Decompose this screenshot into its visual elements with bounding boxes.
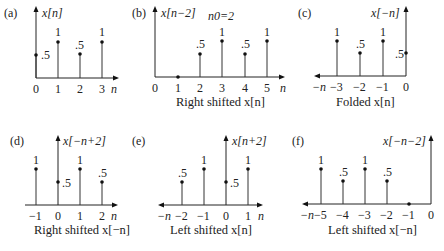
tick-label: 3	[99, 82, 105, 96]
sample-point	[404, 51, 408, 55]
x-axis-arrow-icon	[257, 203, 263, 208]
tick-label: 0	[152, 81, 158, 95]
tick-label: 0	[33, 82, 39, 96]
sample-value: 1	[318, 153, 324, 167]
sample-value: 1	[201, 153, 207, 167]
tick-label: 4	[242, 81, 248, 95]
y-axis-arrow-icon	[56, 135, 61, 141]
x-axis-arrow-icon	[279, 75, 285, 80]
x-axis-arrow-icon	[112, 203, 118, 208]
sample-point	[100, 180, 104, 184]
sample-value: .5	[196, 37, 205, 51]
signal-operations-figure: (a) x[n] n .5 1 .5 1 0 1 2 3 (b) x[n−2] …	[0, 0, 444, 251]
y-axis-arrow-icon	[34, 6, 39, 12]
sample-point	[78, 167, 82, 171]
tick-label: 5	[264, 81, 270, 95]
panel-caption: Folded x[n]	[336, 95, 395, 109]
sample-value: .5	[395, 47, 404, 61]
panel-d: (d) x[−n+2] n 1 .5 1 .5 −1 0 1 2 Right s…	[10, 134, 130, 237]
sample-value: .5	[339, 165, 348, 179]
y-axis-label: x[n]	[41, 6, 63, 20]
x-axis-label: −n	[312, 80, 326, 94]
tick-label: −3	[358, 208, 371, 222]
tick-label: −4	[336, 208, 349, 222]
sample-point	[56, 180, 60, 184]
tick-label: −2	[175, 209, 188, 223]
sample-value: 1	[362, 153, 368, 167]
panel-caption: Right shifted x[−n]	[34, 223, 130, 237]
sample-point	[34, 53, 38, 57]
panel-c: (c) x[−n] 1 .5 1 .5 −n −3 −2 −1 0 Folded…	[298, 6, 409, 109]
sample-point	[243, 52, 247, 56]
panel-caption: Left shifted x[−n]	[328, 223, 417, 237]
sample-value: .5	[356, 37, 365, 51]
panel-tag: (d)	[10, 134, 24, 148]
y-axis-label: x[−n−2]	[382, 134, 426, 148]
x-axis-left-label: −n	[157, 209, 171, 223]
sample-value: .5	[98, 166, 107, 180]
y-axis-label: x[−n+2]	[62, 134, 106, 148]
sample-point	[381, 39, 385, 43]
tick-label: 3	[219, 81, 225, 95]
sample-point	[246, 167, 250, 171]
shift-note: n0=2	[208, 9, 234, 23]
x-axis-arrow-icon	[113, 76, 119, 81]
sample-value: 1	[245, 153, 251, 167]
sample-value: 1	[380, 25, 386, 39]
panel-caption: Right shifted x[n]	[176, 95, 265, 109]
sample-value: 1	[334, 25, 340, 39]
tick-label: −1	[197, 209, 210, 223]
sample-point	[34, 167, 38, 171]
tick-label: 0	[428, 208, 434, 222]
y-axis-arrow-icon	[153, 6, 158, 12]
sample-point	[341, 179, 345, 183]
x-axis-label: n	[111, 82, 117, 96]
sample-point	[224, 180, 228, 184]
panel-e: (e) x[n+2] .5 1 .5 1 −n −2 −1 0 1 n Left…	[132, 134, 267, 237]
sample-point	[335, 39, 339, 43]
sample-point	[358, 51, 362, 55]
y-axis-label: x[n−2]	[160, 6, 196, 20]
panel-caption: Left shifted x[n]	[170, 223, 252, 237]
y-axis-arrow-icon	[404, 6, 409, 12]
x-axis-label: n	[280, 81, 286, 95]
panel-f: (f) x[−n−2] 1 .5 1 .5 −n −5 −4 −3 −2 −1 …	[292, 134, 434, 237]
sample-point	[180, 180, 184, 184]
sample-point	[319, 167, 323, 171]
tick-label: 1	[77, 209, 83, 223]
sample-value: 1	[219, 25, 225, 39]
sample-value: 1	[264, 25, 270, 39]
panel-tag: (a)	[4, 6, 17, 20]
tick-label: 2	[197, 81, 203, 95]
sample-point	[265, 39, 269, 43]
panel-tag: (b)	[132, 6, 146, 20]
tick-label: −1	[376, 80, 389, 94]
sample-point	[56, 40, 60, 44]
tick-label: −3	[330, 80, 343, 94]
panel-tag: (e)	[132, 134, 145, 148]
sample-point	[363, 167, 367, 171]
sample-point	[202, 167, 206, 171]
sample-point	[78, 52, 82, 56]
sample-point	[176, 75, 180, 79]
tick-label: −2	[353, 80, 366, 94]
tick-label: 1	[245, 209, 251, 223]
sample-point	[100, 40, 104, 44]
panel-tag: (c)	[298, 6, 311, 20]
sample-point	[198, 52, 202, 56]
sample-value: .5	[230, 176, 239, 190]
x-axis-arrow-icon	[302, 202, 308, 207]
y-axis-arrow-icon	[224, 135, 229, 141]
sample-value: 1	[77, 153, 83, 167]
tick-label: 0	[223, 209, 229, 223]
tick-label: 0	[55, 209, 61, 223]
tick-label: 2	[77, 82, 83, 96]
y-axis-label: x[n+2]	[231, 134, 267, 148]
sample-value: 1	[55, 25, 61, 39]
sample-point	[407, 202, 411, 206]
sample-value: .5	[241, 37, 250, 51]
x-axis-label: n	[111, 209, 117, 223]
sample-value: .5	[62, 176, 71, 190]
panel-a: (a) x[n] n .5 1 .5 1 0 1 2 3	[4, 6, 119, 96]
x-axis-label: n	[258, 209, 264, 223]
